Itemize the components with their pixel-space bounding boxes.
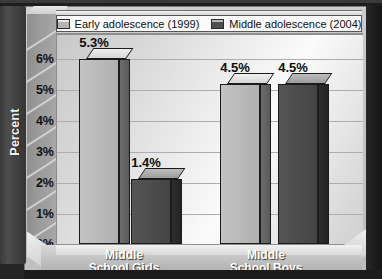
y-tick-2: 2% [24,177,54,189]
legend-label-early: Early adolescence (1999) [75,18,200,30]
category-label-girls-line1: Middle [64,249,184,262]
legend-item-early[interactable]: Early adolescence (1999) [57,18,200,30]
y-axis-title: Percent [7,90,23,174]
frame-top-highlight [0,0,382,3]
legend-item-middle[interactable]: Middle adolescence (2004) [211,18,361,30]
category-label-boys-line1: Middle [206,249,326,262]
y-tick-3: 3% [24,146,54,158]
y-tick-5: 5% [24,84,54,96]
chart-legend: Early adolescence (1999) Middle adolesce… [56,15,362,32]
data-label-girls-middle: 1.4% [111,155,181,170]
frame-bottom-edge [24,270,382,279]
bar-girls-early [79,48,119,244]
y-tick-1: 1% [24,208,54,220]
dark-swatch-icon [211,19,224,29]
light-swatch-icon [57,19,70,29]
bar-boys-early [220,73,260,244]
legend-label-middle: Middle adolescence (2004) [229,18,361,30]
data-label-boys-middle: 4.5% [258,60,328,75]
axis-title-band: Percent [0,6,26,264]
y-tick-6: 6% [24,53,54,65]
bar-boys-middle [278,73,318,244]
frame-right-edge [366,6,382,279]
y-tick-4: 4% [24,115,54,127]
chart-screenshot: Percent Early adolescence (1999) Middle … [0,0,382,279]
bar-girls-middle [131,168,171,244]
data-label-girls-early: 5.3% [59,35,129,50]
